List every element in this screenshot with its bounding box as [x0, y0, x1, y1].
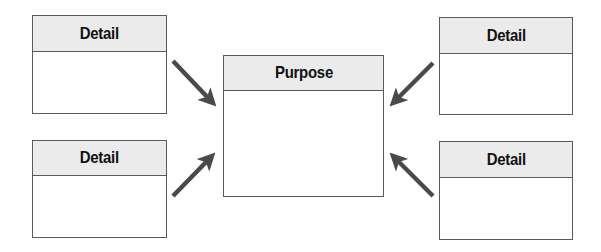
- arrows-layer: [0, 0, 601, 252]
- arrow-bottom-left-to-center: [173, 157, 211, 196]
- arrow-bottom-right-to-center: [394, 157, 433, 196]
- arrow-top-right-to-center: [394, 63, 433, 102]
- arrow-top-left-to-center: [173, 61, 212, 102]
